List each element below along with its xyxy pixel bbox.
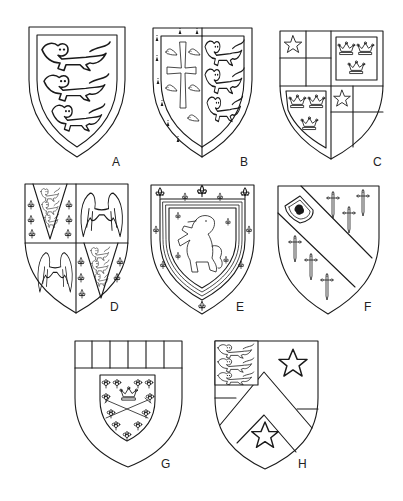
shield-a-bordure bbox=[37, 35, 117, 147]
label-f: F bbox=[364, 300, 371, 314]
label-a: A bbox=[112, 155, 120, 169]
heraldry-figure: A B bbox=[0, 0, 403, 501]
shield-a: A bbox=[29, 27, 125, 169]
tressure-outer bbox=[160, 199, 245, 300]
shield-b-bordure bbox=[161, 36, 202, 147]
lion-rampant bbox=[178, 216, 217, 273]
shield-d: D bbox=[25, 184, 128, 314]
shield-f: F bbox=[278, 186, 379, 314]
tressure-inner bbox=[169, 208, 236, 288]
label-d: D bbox=[110, 300, 119, 314]
shield-g: G bbox=[75, 341, 182, 471]
shield-c: C bbox=[280, 31, 383, 169]
canton bbox=[215, 341, 258, 385]
shield-e: E bbox=[151, 185, 254, 314]
label-g: G bbox=[161, 457, 170, 471]
shield-h: H bbox=[215, 341, 318, 471]
cross-flory bbox=[167, 42, 196, 108]
shield-b: B bbox=[153, 28, 252, 169]
inner-escutcheon bbox=[100, 375, 155, 441]
bend bbox=[301, 186, 372, 258]
label-h: H bbox=[298, 457, 307, 471]
label-e: E bbox=[236, 300, 244, 314]
label-c: C bbox=[373, 155, 382, 169]
label-b: B bbox=[240, 155, 248, 169]
